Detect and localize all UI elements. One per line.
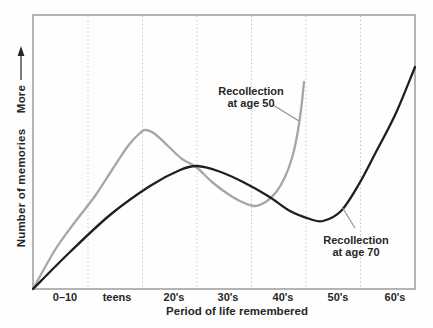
reminiscence-bump-figure: More Number of memories Recollection at … bbox=[0, 0, 433, 328]
series-label-age-70-line1: Recollection bbox=[323, 234, 388, 246]
more-arrow-head-icon bbox=[18, 46, 25, 56]
x-tick-label-30s: 30's bbox=[218, 291, 239, 303]
y-axis-title: Number of memories bbox=[15, 129, 27, 248]
x-tick-label-60s: 60's bbox=[385, 291, 406, 303]
series-line-age-50 bbox=[33, 82, 304, 289]
chart-canvas bbox=[0, 0, 433, 328]
series-label-age-70-line2: at age 70 bbox=[332, 246, 379, 258]
x-tick-label-20s: 20's bbox=[164, 291, 185, 303]
y-axis-more-label: More bbox=[15, 85, 27, 113]
series-label-age-50: Recollection at age 50 bbox=[218, 85, 283, 109]
x-tick-label-50s: 50's bbox=[328, 291, 349, 303]
series-label-age-50-line2: at age 50 bbox=[227, 97, 274, 109]
leader-line-age-70 bbox=[342, 207, 355, 228]
x-tick-label-teens: teens bbox=[103, 291, 132, 303]
x-axis-title: Period of life remembered bbox=[166, 305, 308, 317]
x-tick-label-40s: 40's bbox=[273, 291, 294, 303]
x-tick-label-0-10: 0–10 bbox=[53, 291, 77, 303]
series-label-age-50-line1: Recollection bbox=[218, 85, 283, 97]
series-label-age-70: Recollection at age 70 bbox=[323, 234, 388, 258]
